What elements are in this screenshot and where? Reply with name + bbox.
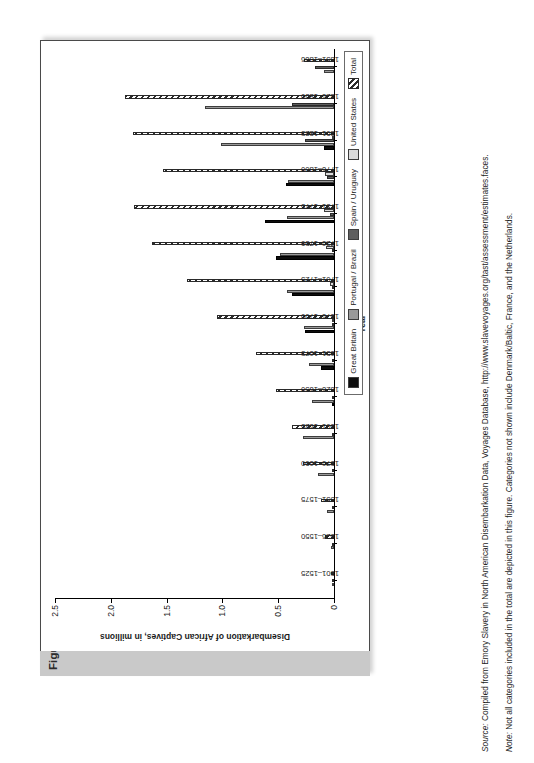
x-tick	[334, 470, 337, 471]
legend-swatch-great_britain	[348, 377, 359, 388]
legend-item-united_states: United States	[348, 98, 359, 160]
x-tick-label: 1651–1675	[301, 349, 339, 358]
bar	[315, 66, 334, 69]
x-tick-label: 1501–1525	[301, 569, 339, 578]
bar	[332, 543, 334, 546]
bar	[327, 176, 334, 179]
bar-group	[55, 278, 334, 296]
x-tick	[334, 213, 337, 214]
bar-group	[55, 352, 334, 370]
bar	[332, 249, 334, 252]
bar	[324, 70, 334, 73]
bar	[318, 473, 334, 476]
bar-group	[55, 132, 334, 150]
x-tick	[334, 543, 337, 544]
bar	[287, 216, 334, 219]
bar	[205, 106, 334, 109]
x-tick	[334, 360, 337, 361]
x-tick-label: 1801–1825	[301, 129, 339, 138]
source-text: Compiled from Emory Slavery in North Ame…	[480, 154, 490, 723]
bar	[324, 146, 334, 149]
bar	[276, 256, 334, 259]
bar	[330, 213, 334, 216]
x-tick-label: 1576–1600	[301, 459, 339, 468]
y-axis-title: Disembarkation of African Captives, in m…	[100, 632, 290, 642]
y-tick-label: 1.5	[162, 605, 172, 617]
bar	[332, 433, 334, 436]
bar	[312, 400, 334, 403]
bar	[286, 183, 334, 186]
bar-group	[55, 315, 334, 333]
x-tick-label: 1826–1850	[301, 92, 339, 101]
bar-group	[55, 425, 334, 443]
bar	[331, 546, 334, 549]
bar	[321, 366, 334, 369]
figure-container: Figure 3.1Select Disembarkation of Afric…	[40, 40, 370, 676]
bar	[332, 286, 334, 289]
y-tick-label: 1.0	[217, 605, 227, 617]
y-tick	[167, 599, 168, 603]
bar	[221, 143, 334, 146]
x-tick-label: 1676–1700	[301, 312, 339, 321]
bar	[292, 103, 334, 106]
bar	[332, 469, 334, 472]
bar	[332, 396, 334, 399]
x-tick	[334, 176, 337, 177]
bar	[305, 139, 334, 142]
bar-group	[55, 535, 334, 553]
legend-swatch-portugal_brazil	[348, 309, 359, 320]
bar	[327, 510, 334, 513]
bar	[309, 363, 334, 366]
x-tick	[334, 250, 337, 251]
legend-item-great_britain: Great Britain	[348, 329, 359, 388]
y-tick-label: 2.5	[50, 605, 60, 617]
y-axis	[55, 598, 335, 599]
bar	[305, 330, 334, 333]
legend-item-total: Total	[348, 58, 359, 89]
legend-label-portugal_brazil: Portugal / Brazil	[349, 249, 358, 305]
x-tick	[334, 323, 337, 324]
legend-item-portugal_brazil: Portugal / Brazil	[348, 249, 359, 319]
source-label: Source:	[480, 723, 490, 752]
x-tick-label: 1851–1866	[301, 55, 339, 64]
y-tick	[55, 599, 56, 603]
figure-title-spine: Figure 3.1Select Disembarkation of Afric…	[40, 651, 370, 676]
legend-swatch-united_states	[348, 149, 359, 160]
chart-legend: Great BritainPortugal / BrazilSpain / Ur…	[344, 51, 363, 395]
figure-note: Note: Not all categories included in the…	[504, 213, 514, 752]
legend-label-total: Total	[349, 58, 358, 75]
plot-area: Disembarkation of African Captives, in m…	[41, 41, 369, 651]
y-tick-label: 0	[329, 605, 339, 610]
bar	[288, 180, 334, 183]
x-tick-label: 1776–1800	[301, 165, 339, 174]
y-tick-label: 0.5	[273, 605, 283, 617]
x-tick-label: 1526–1550	[301, 532, 339, 541]
bar	[287, 290, 334, 293]
x-tick-label: 1626–1650	[301, 385, 339, 394]
y-tick-label: 2.0	[106, 605, 116, 617]
x-tick-label: 1726–1750	[301, 239, 339, 248]
x-tick-label: 1601–1625	[301, 422, 339, 431]
bar	[332, 403, 334, 406]
y-tick	[222, 599, 223, 603]
note-text: Not all categories included in the total…	[504, 213, 514, 732]
legend-label-spain_uruguay: Spain / Uruguay	[349, 169, 358, 226]
bar-group	[55, 58, 334, 76]
bar	[332, 323, 334, 326]
bar-group	[55, 168, 334, 186]
legend-label-great_britain: Great Britain	[349, 329, 358, 374]
legend-swatch-total	[348, 78, 359, 89]
x-tick-label: 1551–1575	[301, 495, 339, 504]
source-note: Source: Compiled from Emory Slavery in N…	[480, 154, 490, 752]
x-tick	[334, 103, 337, 104]
x-tick	[334, 140, 337, 141]
note-label: Note:	[504, 732, 514, 752]
figure-page: Figure 3.1Select Disembarkation of Afric…	[0, 0, 534, 763]
bar-group	[55, 388, 334, 406]
bar	[332, 579, 334, 582]
x-tick-label: 1751–1775	[301, 202, 339, 211]
y-tick	[111, 599, 112, 603]
x-tick	[334, 580, 337, 581]
bar-group	[55, 242, 334, 260]
bar	[292, 293, 334, 296]
